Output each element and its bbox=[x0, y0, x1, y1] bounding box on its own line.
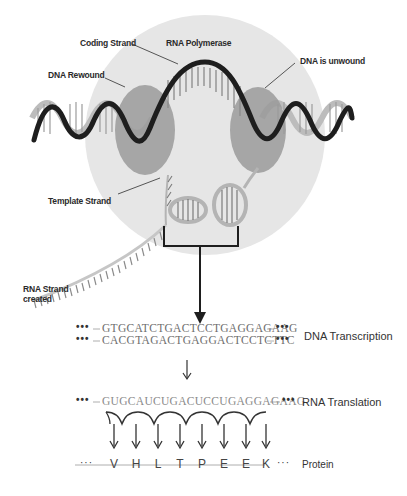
amino-acid: H bbox=[129, 457, 143, 471]
label-rna-polymerase: RNA Polymerase bbox=[166, 38, 231, 48]
ellipsis-left: ••• bbox=[76, 394, 90, 405]
amino-acid: P bbox=[195, 457, 209, 471]
label-dna-rewound: DNA Rewound bbox=[48, 70, 105, 80]
template-sequence: CACGTAGACTGAGGACTCCTCTTC bbox=[102, 334, 295, 346]
ellipsis-right: ••• bbox=[282, 394, 296, 405]
ellipsis-left: ··· bbox=[80, 457, 93, 468]
rna-sequence: GUGCAUCUGACUCCUGAGGAGAAG bbox=[102, 395, 305, 407]
down-arrow-small bbox=[183, 360, 191, 379]
amino-acid: E bbox=[239, 457, 253, 471]
ellipsis-right: ••• bbox=[276, 321, 290, 332]
amino-acid: K bbox=[259, 457, 273, 471]
amino-acid: V bbox=[107, 457, 121, 471]
label-dna-transcription: DNA Transcription bbox=[304, 330, 393, 342]
label-rna-strand-created-2: created bbox=[23, 294, 52, 304]
label-rna-strand-created-1: RNA Strand bbox=[23, 284, 68, 294]
rewind-enzyme bbox=[115, 85, 175, 175]
ellipsis-right: ••• bbox=[276, 333, 290, 344]
coding-sequence: GTGCATCTGACTCCTGAGGAGAAG bbox=[102, 322, 298, 334]
label-coding-strand: Coding Strand bbox=[80, 38, 136, 48]
ellipsis-left: ••• bbox=[76, 333, 90, 344]
amino-acid: T bbox=[173, 457, 187, 471]
amino-acid: E bbox=[217, 457, 231, 471]
label-dna-unwound: DNA is unwound bbox=[300, 56, 365, 66]
ellipsis-left: ••• bbox=[76, 321, 90, 332]
ellipsis-right: ··· bbox=[277, 457, 290, 468]
codon-brackets bbox=[106, 412, 270, 448]
label-rna-translation: RNA Translation bbox=[302, 396, 381, 408]
label-protein: Protein bbox=[302, 459, 334, 470]
label-template-strand: Template Strand bbox=[48, 196, 111, 206]
amino-acid: L bbox=[151, 457, 165, 471]
transcription-translation-diagram: Coding Strand RNA Polymerase DNA Rewound… bbox=[0, 0, 407, 496]
